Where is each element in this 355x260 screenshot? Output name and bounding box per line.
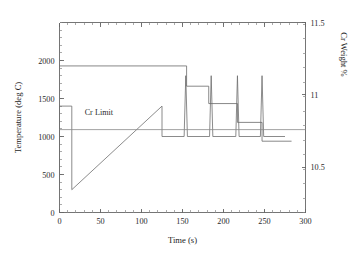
data-series-group <box>60 66 306 190</box>
cr-limit-label: Cr Limit <box>85 108 114 117</box>
chart-canvas: 050100150200250300050010001500200010.511… <box>0 0 355 260</box>
y2-axis-title: Cr Weight % <box>339 32 349 77</box>
annotations: Cr Limit <box>85 108 114 117</box>
x-axis-title: Time (s) <box>168 235 197 245</box>
x-tick-label: 100 <box>135 217 147 226</box>
series-temperature <box>60 76 286 190</box>
chart-figure: 050100150200250300050010001500200010.511… <box>0 0 355 260</box>
x-tick-label: 300 <box>299 217 311 226</box>
x-tick-label: 250 <box>258 217 270 226</box>
minor-ticks <box>60 23 306 213</box>
y-tick-label: 2000 <box>38 57 54 66</box>
y-tick-label: 1000 <box>38 133 54 142</box>
x-tick-label: 150 <box>176 217 188 226</box>
y2-tick-label: 11.5 <box>311 19 325 28</box>
x-tick-label: 200 <box>217 217 229 226</box>
y2-tick-label: 10.5 <box>311 163 325 172</box>
x-tick-label: 0 <box>57 217 61 226</box>
tick-labels: 050100150200250300050010001500200010.511… <box>38 19 325 226</box>
axis-frame-rect <box>60 23 306 213</box>
x-tick-label: 50 <box>96 217 104 226</box>
y-tick-label: 500 <box>42 171 54 180</box>
major-ticks <box>60 23 306 213</box>
y2-tick-label: 11 <box>311 91 319 100</box>
plot-frame <box>60 23 306 213</box>
y-tick-label: 0 <box>50 209 54 218</box>
y-tick-label: 1500 <box>38 95 54 104</box>
y-axis-title: Temperature (deg C) <box>13 82 23 154</box>
